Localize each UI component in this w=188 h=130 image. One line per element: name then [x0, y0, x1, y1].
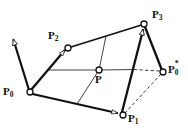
edge-p1-p3	[122, 30, 143, 112]
label-p1-base: P	[128, 112, 135, 124]
label-p1-sub: 1	[135, 117, 139, 126]
label-p0star: P*0	[168, 64, 178, 77]
label-p2: P2	[48, 30, 58, 43]
label-p0star-sup: *	[175, 60, 179, 68]
edge-p3-p0star	[145, 27, 162, 69]
label-p2-sub: 2	[55, 34, 59, 43]
label-p3: P3	[152, 9, 162, 22]
label-p2-base: P	[48, 29, 55, 41]
marker-p3[interactable]	[141, 21, 147, 27]
iso-line-horizontal	[49, 70, 134, 71]
dashed-p0star-to-midline	[133, 70, 160, 72]
label-p3-base: P	[152, 8, 159, 20]
label-p0star-sub: 0	[175, 68, 179, 77]
edge-p2-p3	[71, 25, 142, 47]
tangent-at-p0	[14, 40, 30, 90]
label-p0star-base: P	[168, 63, 175, 75]
label-p: P	[95, 74, 102, 85]
marker-p0star[interactable]	[160, 69, 166, 75]
label-p0: P0	[3, 86, 13, 99]
label-p-base: P	[95, 73, 102, 85]
edge-p0-p1	[33, 94, 118, 113]
marker-p1[interactable]	[120, 112, 126, 118]
label-p1: P1	[128, 113, 138, 126]
label-p0star-stack: P*	[168, 64, 175, 75]
thin-parameter-lines	[49, 36, 134, 104]
marker-p0[interactable]	[27, 89, 33, 95]
label-p3-sub: 3	[159, 13, 163, 22]
tangent-vector-group	[14, 40, 30, 90]
marker-p2[interactable]	[65, 45, 71, 51]
figure-container: P0 P1 P2 P3 P P*0	[0, 0, 188, 130]
label-p0-base: P	[3, 85, 10, 97]
label-p0-sub: 0	[10, 90, 14, 99]
